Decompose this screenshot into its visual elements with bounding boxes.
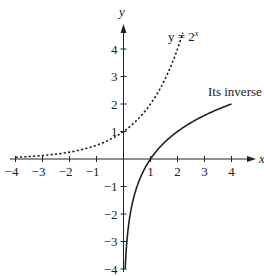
exp-curve-label: y = 2x (168, 29, 199, 44)
y-tick-label: −3 (104, 234, 118, 249)
y-tick-label: −1 (104, 179, 118, 194)
y-axis-arrow-icon (121, 24, 127, 33)
inverse-curve-label: Its inverse (208, 84, 262, 99)
x-tick-label: 1 (147, 164, 154, 179)
x-tick-label: 2 (174, 164, 181, 179)
y-axis-label: y (117, 4, 125, 19)
x-tick-label: −3 (32, 164, 46, 179)
axes (10, 24, 256, 272)
x-tick-label: 4 (228, 164, 235, 179)
x-axis-arrow-icon (247, 156, 256, 162)
y-tick-label: −2 (104, 207, 118, 222)
inverse-curve-solid (125, 104, 231, 269)
y-tick-label: 3 (111, 69, 118, 84)
x-tick-label: −1 (86, 164, 100, 179)
x-axis-label: x (258, 151, 264, 166)
x-tick-label: −2 (59, 164, 73, 179)
x-tick-label: 3 (201, 164, 208, 179)
y-tick-label: 2 (111, 97, 118, 112)
function-graph: −4−3−2−11234 4321−1−2−3−4 x y y = 2x Its… (0, 0, 264, 276)
exp-curve-dashed (16, 33, 183, 158)
y-tick-label: 4 (111, 42, 118, 57)
y-tick-label: −4 (104, 262, 118, 276)
x-tick-label: −4 (5, 164, 19, 179)
